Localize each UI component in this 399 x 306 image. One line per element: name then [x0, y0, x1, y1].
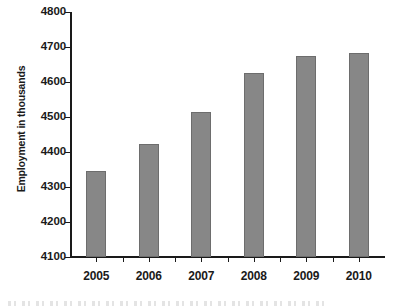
- x-tick-mark-2007: [201, 257, 202, 262]
- bar-2005: [86, 171, 106, 257]
- x-tick-mark-2010: [359, 257, 360, 262]
- y-tick-label: 4100: [41, 250, 66, 262]
- plot-area: 41004200430044004500460047004800 2005200…: [70, 12, 385, 257]
- y-tick-label: 4300: [41, 180, 66, 192]
- bar-chart: Employment in thousands 4100420043004400…: [0, 0, 399, 306]
- y-tick-label: 4200: [41, 215, 66, 227]
- x-tick-boundary-1: [123, 257, 124, 262]
- x-tick-boundary-4: [280, 257, 281, 262]
- x-tick-mark-2008: [254, 257, 255, 262]
- x-axis-label-2010: 2010: [333, 269, 386, 283]
- bar-2007: [191, 112, 211, 257]
- page-footer-artifact: [8, 301, 328, 306]
- bar-2009: [296, 56, 316, 257]
- bar-2010: [349, 53, 369, 257]
- bar-2008: [244, 73, 264, 257]
- x-axis-label-2007: 2007: [175, 269, 228, 283]
- x-tick-boundary-5: [333, 257, 334, 262]
- x-axis-label-2008: 2008: [228, 269, 281, 283]
- y-tick-label: 4700: [41, 40, 66, 52]
- y-axis-title-container: Employment in thousands: [12, 0, 30, 258]
- bar-2006: [139, 144, 159, 257]
- x-axis-label-2009: 2009: [280, 269, 333, 283]
- x-tick-mark-2006: [149, 257, 150, 262]
- y-tick-label: 4800: [41, 5, 66, 17]
- y-tick-label: 4600: [41, 75, 66, 87]
- x-tick-mark-2009: [306, 257, 307, 262]
- x-axis-label-2006: 2006: [123, 269, 176, 283]
- y-axis-line: [70, 12, 72, 257]
- x-tick-mark-2005: [96, 257, 97, 262]
- x-axis-label-2005: 2005: [70, 269, 123, 283]
- y-tick-label: 4400: [41, 145, 66, 157]
- y-tick-label: 4500: [41, 110, 66, 122]
- x-tick-boundary-3: [228, 257, 229, 262]
- x-tick-boundary-2: [175, 257, 176, 262]
- y-axis-title: Employment in thousands: [12, 0, 30, 258]
